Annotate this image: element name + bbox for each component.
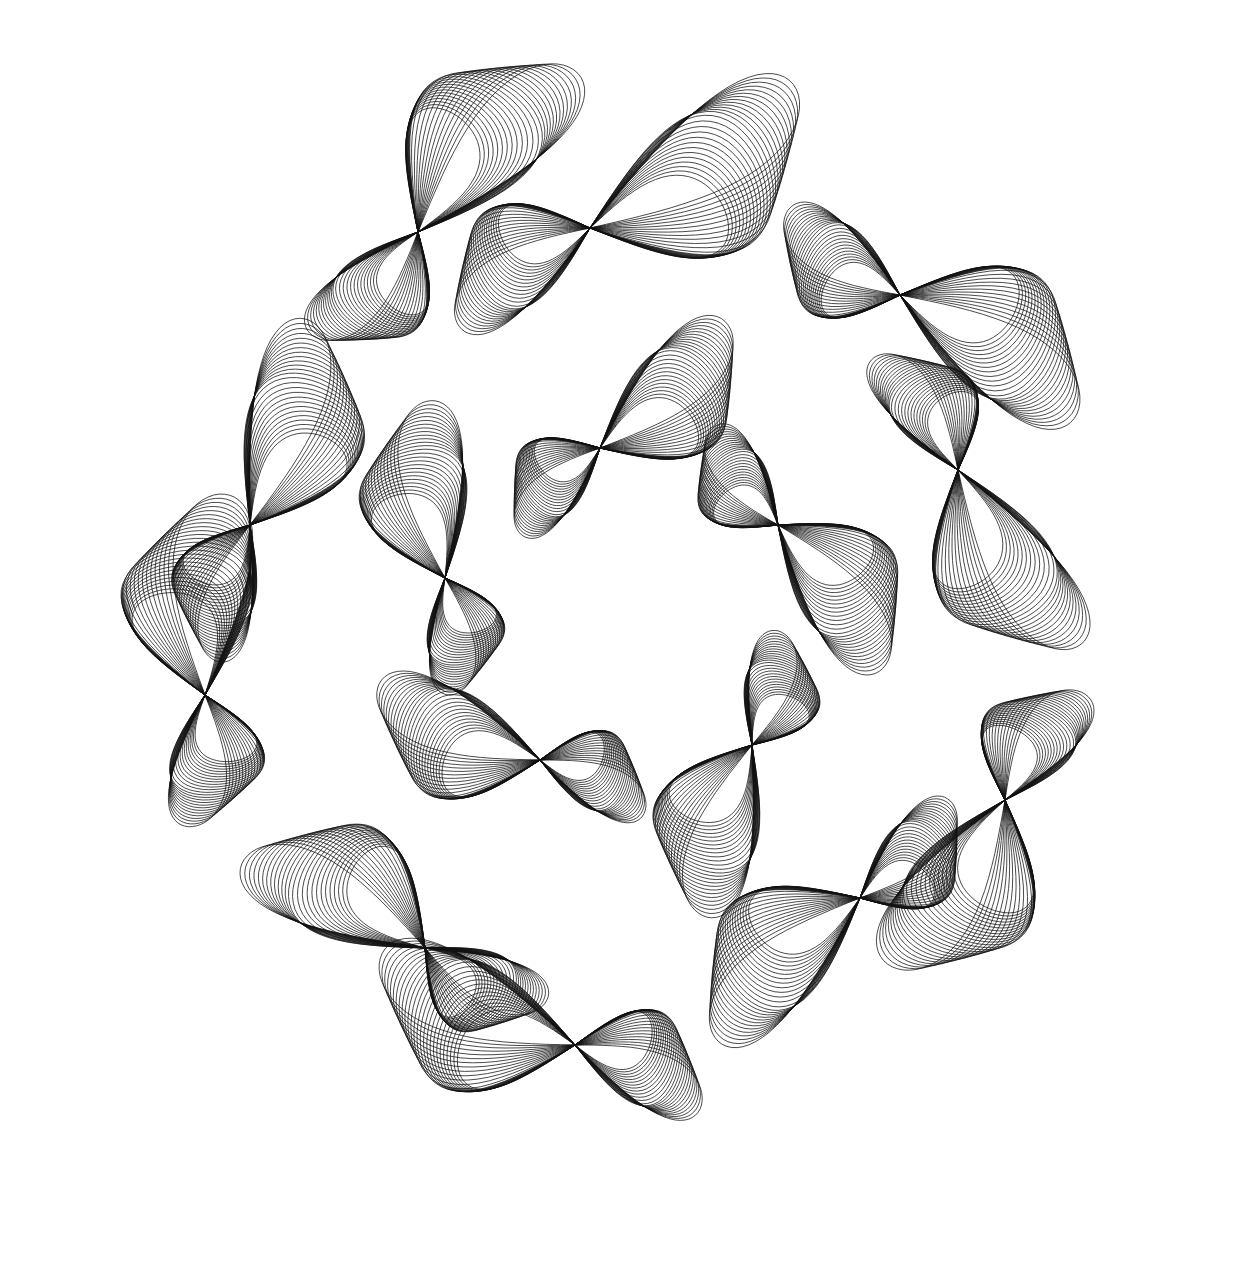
loop-curve (683, 630, 798, 917)
loop-curve (430, 980, 670, 1092)
loop-curve (460, 93, 789, 321)
loop-curve (496, 171, 732, 267)
loop-curve (714, 815, 957, 1020)
loop-curve (803, 235, 1047, 381)
loop-curve (891, 694, 1084, 962)
loop-curve (925, 389, 1006, 592)
loop-curve (930, 712, 1058, 934)
loop-curve (700, 440, 896, 650)
loop-curve (351, 84, 518, 330)
loop-curve (419, 706, 619, 799)
loop-curve (489, 157, 744, 276)
loop-curve (190, 334, 340, 652)
lobe-family (867, 354, 1090, 650)
lobe-family (172, 318, 365, 662)
loop-curve (498, 175, 728, 264)
loop-curve (702, 434, 895, 660)
lobe-family (709, 796, 957, 1048)
loop-curve (800, 228, 1053, 391)
lobe-family (359, 401, 505, 695)
loop-curve (898, 372, 1044, 619)
loop-curve (384, 677, 642, 818)
loop-curve (934, 714, 1054, 931)
loop-curve (198, 318, 331, 662)
lobe-family (304, 64, 584, 341)
loop-curve (476, 127, 765, 299)
loop-curve (721, 827, 953, 1002)
loop-curve (914, 381, 1022, 604)
loop-curve (664, 649, 811, 890)
loop-curve (699, 444, 897, 644)
loop-curve (464, 102, 782, 315)
lobe-family (121, 494, 265, 827)
loop-curve (735, 846, 943, 974)
curve-families (121, 64, 1094, 1121)
loop-curve (699, 455, 895, 630)
loop-curve (916, 706, 1067, 942)
loop-curve (815, 254, 1029, 355)
loop-curve (263, 835, 534, 1023)
loop-curve (917, 383, 1018, 601)
loop-curve (319, 67, 564, 340)
loop-curve (304, 64, 584, 341)
lobe-family (653, 630, 820, 917)
loop-curve (364, 96, 498, 323)
loop-curve (391, 683, 637, 815)
loop-curve (361, 93, 503, 325)
loop-curve (807, 242, 1041, 372)
lobe-family (698, 424, 898, 675)
loop-curve (142, 523, 250, 808)
loop-curve (796, 223, 1058, 400)
loop-curve (396, 952, 691, 1111)
lobe-family (454, 74, 799, 335)
loop-curve (811, 248, 1035, 363)
loop-curve (367, 99, 493, 321)
loop-curve (950, 721, 1042, 919)
loop-curve (881, 360, 1071, 639)
lobe-family (377, 671, 646, 823)
loop-curve (701, 438, 896, 653)
loop-curve (680, 633, 800, 913)
loop-curve (388, 946, 697, 1115)
loop-curve (398, 401, 476, 695)
loop-curve (465, 105, 780, 313)
loop-curve (738, 849, 942, 970)
loop-curve (698, 452, 897, 634)
loop-curve (709, 796, 957, 1048)
harmonograph-drawing (0, 0, 1240, 1267)
loop-curve (885, 363, 1063, 633)
line-art-canvas (0, 0, 1240, 1267)
loop-curve (928, 392, 1003, 589)
loop-curve (515, 344, 728, 520)
